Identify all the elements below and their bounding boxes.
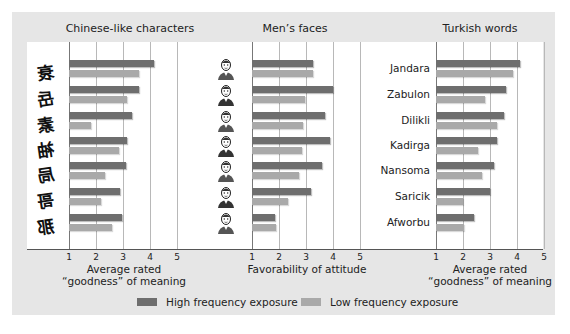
legend-high: High frequency exposure <box>137 296 298 308</box>
chinese-like-character-icon: 素 <box>32 109 59 137</box>
turkish-word-label: Afworbu <box>360 216 430 228</box>
bar-high-frequency <box>436 112 504 119</box>
bar-low-frequency <box>252 198 288 205</box>
bar-low-frequency <box>436 122 497 129</box>
bar-low-frequency <box>436 70 513 77</box>
x-tick-label: 4 <box>328 252 338 262</box>
x-tick-label: 4 <box>145 252 155 262</box>
bar-low-frequency <box>436 198 463 205</box>
bar-high-frequency <box>436 60 520 67</box>
bar-low-frequency <box>252 224 276 231</box>
bar-low-frequency <box>69 172 105 179</box>
turkish-word-label: Zabulon <box>360 88 430 100</box>
chinese-like-character-icon: 袖 <box>32 134 59 162</box>
gridline <box>177 42 178 249</box>
xlabel-faces: Favorability of attitude <box>232 263 382 275</box>
chinese-like-character-icon: 哥 <box>32 185 59 213</box>
bar-high-frequency <box>252 162 322 169</box>
bar-low-frequency <box>69 70 139 77</box>
legend-label-low: Low frequency exposure <box>330 296 458 308</box>
legend-swatch-high <box>137 298 157 306</box>
bar-low-frequency <box>69 224 112 231</box>
x-tick-label: 1 <box>64 252 74 262</box>
xlabel-line1: Favorability of attitude <box>232 263 382 275</box>
chinese-like-character-icon: 那 <box>32 211 59 239</box>
x-tick-label: 1 <box>431 252 441 262</box>
legend-low: Low frequency exposure <box>301 296 458 308</box>
bar-low-frequency <box>69 198 101 205</box>
bar-high-frequency <box>69 162 126 169</box>
chinese-like-character-icon: 岳 <box>32 83 59 111</box>
face-portrait-icon <box>216 212 236 234</box>
bar-high-frequency <box>252 188 311 195</box>
bar-low-frequency <box>436 96 485 103</box>
panel-title-turkish: Turkish words <box>410 22 550 35</box>
chinese-like-character-icon: 局 <box>32 159 59 187</box>
xlabel-line1: Average rated <box>425 263 555 275</box>
gridline <box>544 42 545 249</box>
bar-high-frequency <box>69 188 120 195</box>
bar-high-frequency <box>252 112 325 119</box>
bar-high-frequency <box>436 188 490 195</box>
bar-high-frequency <box>69 60 154 67</box>
xlabel-line2: “goodness” of meaning <box>59 275 189 287</box>
x-tick-label: 5 <box>172 252 182 262</box>
x-tick-label: 1 <box>247 252 257 262</box>
bar-high-frequency <box>436 137 497 144</box>
xlabel-line1: Average rated <box>59 263 189 275</box>
face-portrait-icon <box>216 110 236 132</box>
panel-title-faces: Men’s faces <box>230 22 360 35</box>
x-tick-label: 5 <box>355 252 365 262</box>
bar-high-frequency <box>252 60 313 67</box>
xlabel-turkish: Average rated “goodness” of meaning <box>425 263 555 287</box>
legend-label-high: High frequency exposure <box>166 296 298 308</box>
xlabel-line2: “goodness” of meaning <box>425 275 555 287</box>
bar-high-frequency <box>252 86 333 93</box>
x-tick-label: 4 <box>512 252 522 262</box>
x-tick-label: 3 <box>301 252 311 262</box>
face-portrait-icon <box>216 160 236 182</box>
panel-title-chinese: Chinese-like characters <box>55 22 205 35</box>
bar-high-frequency <box>69 86 139 93</box>
x-tick-label: 3 <box>485 252 495 262</box>
turkish-word-label: Dilikli <box>360 114 430 126</box>
bar-high-frequency <box>252 137 330 144</box>
bar-high-frequency <box>436 214 474 221</box>
bar-low-frequency <box>252 96 305 103</box>
bar-high-frequency <box>69 112 132 119</box>
turkish-word-label: Jandara <box>360 62 430 74</box>
turkish-word-label: Saricik <box>360 190 430 202</box>
bar-low-frequency <box>252 70 313 77</box>
chinese-like-character-icon: 衰 <box>32 57 59 85</box>
bar-high-frequency <box>69 137 127 144</box>
bar-low-frequency <box>252 147 302 154</box>
x-tick-label: 5 <box>539 252 549 262</box>
face-portrait-icon <box>216 186 236 208</box>
bar-low-frequency <box>436 147 478 154</box>
bar-low-frequency <box>69 96 127 103</box>
gridline <box>333 42 334 249</box>
turkish-word-label: Nansoma <box>360 164 430 176</box>
x-axis-line <box>27 249 543 250</box>
bar-low-frequency <box>436 172 482 179</box>
bar-high-frequency <box>436 86 506 93</box>
bar-low-frequency <box>69 122 91 129</box>
face-portrait-icon <box>216 84 236 106</box>
face-portrait-icon <box>216 135 236 157</box>
xlabel-chinese: Average rated “goodness” of meaning <box>59 263 189 287</box>
x-tick-label: 2 <box>91 252 101 262</box>
x-tick-label: 3 <box>118 252 128 262</box>
face-portrait-icon <box>216 58 236 80</box>
x-tick-label: 2 <box>458 252 468 262</box>
turkish-word-label: Kadirga <box>360 139 430 151</box>
x-tick-label: 2 <box>274 252 284 262</box>
bar-high-frequency <box>436 162 494 169</box>
bar-high-frequency <box>69 214 122 221</box>
bar-high-frequency <box>252 214 275 221</box>
gridline <box>517 42 518 249</box>
bar-low-frequency <box>69 147 119 154</box>
gridline <box>150 42 151 249</box>
bar-low-frequency <box>436 224 464 231</box>
bar-low-frequency <box>252 172 299 179</box>
bar-low-frequency <box>252 122 303 129</box>
